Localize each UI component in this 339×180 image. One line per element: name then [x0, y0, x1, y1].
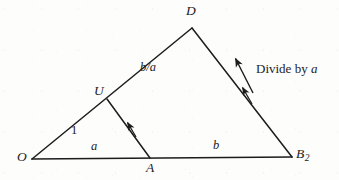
- segment-label-b-over-a: b/a: [140, 61, 156, 74]
- vertex-label-D: D: [186, 4, 196, 18]
- vertex-label-B2-subscript: 2: [305, 153, 310, 163]
- annotation-divide-by-a-text: Divide by: [256, 61, 311, 76]
- segment-label-a: a: [91, 140, 97, 153]
- vertex-label-U: U: [94, 84, 104, 98]
- segment-label-b: b: [213, 139, 219, 152]
- annotation-divide-by-a: Divide by a: [256, 62, 317, 75]
- vertex-label-A: A: [146, 161, 154, 175]
- vertex-label-B2-base: B: [296, 146, 304, 161]
- vertex-label-O: O: [17, 150, 27, 164]
- edge-D-B2: [192, 28, 292, 157]
- edge-U-A: [107, 99, 150, 158]
- segment-label-one: 1: [71, 124, 77, 137]
- vertex-label-B2: B2: [296, 147, 309, 161]
- geometry-figure: O A B2 U D 1 a b b/a Divide by a: [0, 0, 339, 180]
- edge-O-D: [32, 28, 192, 159]
- edge-O-B2: [32, 157, 292, 159]
- annotation-divide-by-a-variable: a: [311, 61, 318, 76]
- diagram-canvas: [0, 0, 339, 180]
